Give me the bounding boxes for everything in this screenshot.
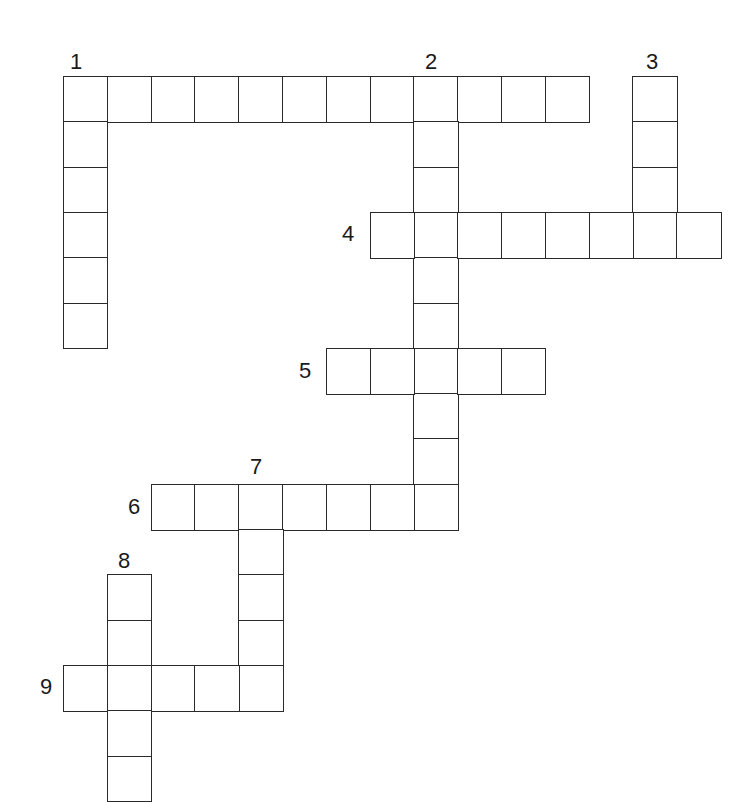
crossword-cell[interactable] bbox=[238, 484, 283, 531]
crossword-cell[interactable] bbox=[107, 665, 152, 712]
crossword-cell[interactable] bbox=[107, 76, 152, 123]
crossword-cell[interactable] bbox=[238, 665, 283, 712]
crossword-cell[interactable] bbox=[326, 348, 371, 395]
crossword-cell[interactable] bbox=[63, 76, 108, 123]
crossword-cell[interactable] bbox=[457, 348, 502, 395]
crossword-cell[interactable] bbox=[63, 257, 108, 304]
crossword-cell[interactable] bbox=[413, 303, 458, 350]
crossword-cell[interactable] bbox=[326, 484, 371, 531]
crossword-cell[interactable] bbox=[107, 620, 152, 667]
crossword-cell[interactable] bbox=[238, 620, 283, 667]
clue-number-8: 8 bbox=[118, 550, 130, 572]
crossword-cell[interactable] bbox=[151, 665, 196, 712]
crossword-cell[interactable] bbox=[370, 348, 415, 395]
clue-number-4: 4 bbox=[342, 223, 354, 245]
crossword-cell[interactable] bbox=[151, 76, 196, 123]
clue-number-5: 5 bbox=[299, 360, 311, 382]
crossword-cell[interactable] bbox=[63, 303, 108, 350]
crossword-cell[interactable] bbox=[545, 212, 590, 259]
crossword-cell[interactable] bbox=[413, 76, 458, 123]
crossword-cell[interactable] bbox=[413, 393, 458, 440]
crossword-cell[interactable] bbox=[282, 76, 327, 123]
crossword-cell[interactable] bbox=[413, 121, 458, 168]
crossword-cell[interactable] bbox=[413, 257, 458, 304]
crossword-cell[interactable] bbox=[107, 756, 152, 802]
crossword-cell[interactable] bbox=[107, 710, 152, 757]
crossword-cell[interactable] bbox=[501, 212, 546, 259]
crossword-cell[interactable] bbox=[632, 121, 677, 168]
crossword-cell[interactable] bbox=[676, 212, 721, 259]
crossword-cell[interactable] bbox=[589, 212, 634, 259]
crossword-cell[interactable] bbox=[501, 348, 546, 395]
crossword-cell[interactable] bbox=[370, 76, 415, 123]
crossword-cell[interactable] bbox=[501, 76, 546, 123]
crossword-cell[interactable] bbox=[63, 665, 108, 712]
crossword-cell[interactable] bbox=[63, 212, 108, 259]
crossword-cell[interactable] bbox=[326, 76, 371, 123]
crossword-cell[interactable] bbox=[413, 484, 458, 531]
clue-number-3: 3 bbox=[646, 51, 658, 73]
clue-number-6: 6 bbox=[128, 496, 140, 518]
crossword-cell[interactable] bbox=[238, 574, 283, 621]
crossword-cell[interactable] bbox=[282, 484, 327, 531]
crossword-cell[interactable] bbox=[413, 348, 458, 395]
crossword-cell[interactable] bbox=[63, 121, 108, 168]
crossword-cell[interactable] bbox=[457, 212, 502, 259]
crossword-cell[interactable] bbox=[413, 167, 458, 214]
crossword-cell[interactable] bbox=[194, 665, 239, 712]
crossword-cell[interactable] bbox=[107, 574, 152, 621]
crossword-cell[interactable] bbox=[194, 484, 239, 531]
clue-number-9: 9 bbox=[40, 676, 52, 698]
crossword-cell[interactable] bbox=[457, 76, 502, 123]
crossword-cell[interactable] bbox=[370, 212, 415, 259]
crossword-cell[interactable] bbox=[413, 212, 458, 259]
clue-number-7: 7 bbox=[250, 456, 262, 478]
crossword-cell[interactable] bbox=[545, 76, 590, 123]
crossword-cell[interactable] bbox=[632, 167, 677, 214]
crossword-cell[interactable] bbox=[194, 76, 239, 123]
clue-number-1: 1 bbox=[70, 51, 82, 73]
crossword-cell[interactable] bbox=[413, 438, 458, 485]
crossword-cell[interactable] bbox=[151, 484, 196, 531]
crossword-cell[interactable] bbox=[632, 76, 677, 123]
crossword-cell[interactable] bbox=[63, 167, 108, 214]
crossword-cell[interactable] bbox=[632, 212, 677, 259]
clue-number-2: 2 bbox=[425, 51, 437, 73]
crossword-cell[interactable] bbox=[238, 76, 283, 123]
crossword-cell[interactable] bbox=[370, 484, 415, 531]
crossword-cell[interactable] bbox=[238, 529, 283, 576]
